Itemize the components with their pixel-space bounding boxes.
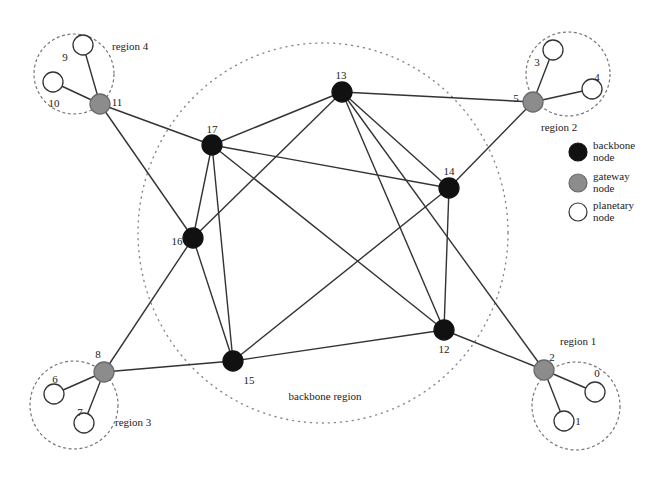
node-label-12: 12 — [439, 343, 450, 355]
node-label-8: 8 — [95, 348, 101, 360]
edge-8-16 — [104, 238, 193, 372]
edge-13-17 — [212, 92, 342, 145]
planetary-node-9 — [73, 35, 93, 55]
edge-17-16 — [193, 145, 212, 238]
legend-gateway-swatch-icon — [569, 174, 587, 192]
node-label-0: 0 — [594, 367, 600, 379]
edge-17-14 — [212, 145, 449, 188]
region-1-label: region 1 — [560, 335, 596, 347]
node-label-5: 5 — [513, 92, 519, 104]
legend-planetary-label-line2: node — [593, 211, 615, 223]
node-label-13: 13 — [336, 69, 348, 81]
backbone-node-17 — [202, 135, 222, 155]
node-label-16: 16 — [172, 235, 184, 247]
node-label-9: 9 — [62, 51, 68, 63]
edge-13-14 — [342, 92, 449, 188]
edge-5-14 — [449, 102, 533, 188]
planetary-node-1 — [554, 411, 574, 431]
node-label-4: 4 — [594, 71, 600, 83]
edge-5-13 — [342, 92, 533, 102]
planetary-node-0 — [585, 382, 605, 402]
node-label-3: 3 — [534, 56, 540, 68]
gateway-node-2 — [534, 360, 554, 380]
node-label-11: 11 — [112, 96, 123, 108]
legend-planetary-swatch-icon — [569, 203, 587, 221]
node-label-7: 7 — [77, 406, 83, 418]
backbone-node-16 — [183, 228, 203, 248]
edge-15-12 — [233, 330, 444, 361]
backbone-node-13 — [332, 82, 352, 102]
backbone-region-label: backbone region — [289, 390, 362, 402]
edge-17-12 — [212, 145, 444, 330]
gateway-node-8 — [94, 362, 114, 382]
node-label-15: 15 — [244, 374, 256, 386]
region-3-label: region 3 — [115, 416, 152, 428]
edge-11-16 — [100, 104, 193, 238]
legend-backbone-label-line2: node — [593, 151, 615, 163]
edge-11-17 — [100, 104, 212, 145]
edge-14-12 — [444, 188, 449, 330]
planetary-node-10 — [43, 72, 63, 92]
region-2-label: region 2 — [541, 121, 577, 133]
legend-gateway-label-line1: gateway — [593, 170, 630, 182]
backbone-node-12 — [434, 320, 454, 340]
network-diagram: backbone region region 1region 2region 3… — [0, 0, 666, 477]
planetary-node-6 — [44, 384, 64, 404]
node-label-14: 14 — [444, 165, 456, 177]
legend: backbonenodegatewaynodeplanetarynode — [569, 139, 635, 223]
legend-backbone-label-line1: backbone — [593, 139, 635, 151]
backbone-node-14 — [439, 178, 459, 198]
backbone-node-15 — [223, 351, 243, 371]
node-label-6: 6 — [52, 373, 58, 385]
edge-14-15 — [233, 188, 449, 361]
edge-8-15 — [104, 361, 233, 372]
legend-planetary-label-line1: planetary — [593, 199, 634, 211]
node-label-17: 17 — [207, 123, 219, 135]
gateway-node-5 — [523, 92, 543, 112]
node-label-2: 2 — [549, 351, 555, 363]
planetary-node-3 — [543, 40, 563, 60]
legend-backbone-swatch-icon — [569, 143, 587, 161]
region-4-label: region 4 — [112, 40, 149, 52]
node-label-1: 1 — [575, 415, 581, 427]
node-label-10: 10 — [49, 97, 61, 109]
gateway-node-11 — [90, 94, 110, 114]
legend-gateway-label-line2: node — [593, 182, 615, 194]
